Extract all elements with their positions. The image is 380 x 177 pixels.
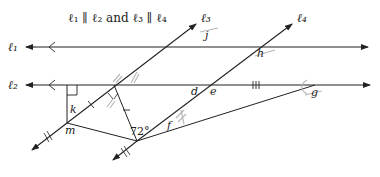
angle-label-72: 72° [130, 125, 150, 138]
label-l4: ℓ₄ [297, 11, 307, 25]
angle-label-e: e [210, 85, 217, 98]
angle-label-m: m [65, 124, 75, 137]
pencil-annotations [107, 28, 322, 124]
label-l3: ℓ₃ [201, 11, 211, 25]
geometry-diagram: ℓ₁ ∥ ℓ₂ and ℓ₃ ∥ ℓ₄ ℓ₁ ℓ₂ [0, 0, 380, 177]
label-l2: ℓ₂ [8, 78, 18, 92]
angle-mark-icon [108, 93, 118, 99]
segment-to-g [137, 85, 315, 141]
line-l1 [26, 42, 368, 52]
line-l3 [32, 24, 196, 150]
triangle [67, 85, 137, 141]
angle-label-h: h [257, 47, 264, 60]
angle-label-k: k [70, 103, 77, 116]
right-angle-icon [67, 85, 77, 95]
angle-label-g: g [311, 86, 318, 99]
diagram-title: ℓ₁ ∥ ℓ₂ and ℓ₃ ∥ ℓ₄ [68, 11, 167, 25]
angle-label-d: d [191, 85, 198, 98]
label-l1: ℓ₁ [8, 40, 18, 54]
